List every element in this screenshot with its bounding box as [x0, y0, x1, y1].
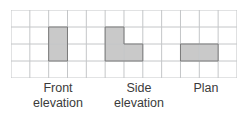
label-plan: Plan — [166, 81, 246, 96]
grid-and-shapes-svg — [11, 10, 237, 78]
side-elevation-shape-cell — [124, 44, 143, 61]
front-elevation-shape-cell — [49, 27, 68, 44]
plan-shape-cell — [180, 44, 199, 61]
front-elevation-shape-cell — [49, 44, 68, 61]
labels-row: Front elevation Side elevation Plan — [0, 79, 247, 116]
orthographic-views-figure: Front elevation Side elevation Plan — [0, 0, 247, 116]
side-elevation-shape-cell — [105, 27, 124, 44]
side-elevation-shape-cell — [105, 44, 124, 61]
plan-shape-cell — [199, 44, 218, 61]
grid-area — [11, 10, 237, 78]
label-front-elevation: Front elevation — [11, 81, 105, 111]
